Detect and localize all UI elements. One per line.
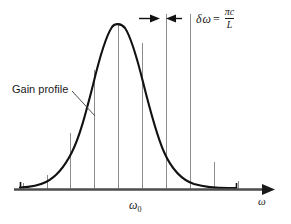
omega-axis-arrowhead [262, 184, 275, 195]
delta-symbol: δ [196, 12, 202, 27]
omega-symbol: ω [203, 12, 211, 27]
gain-profile-curve [20, 24, 236, 188]
spacing-arrowhead-right [166, 15, 176, 23]
figure-canvas [0, 0, 291, 224]
fraction-numerator: πc [223, 7, 236, 18]
mode-spacing-formula: δ ω = πc L [196, 8, 236, 31]
spacing-arrowhead-left [150, 15, 160, 23]
center-frequency-label: ω0 [129, 199, 141, 214]
gain-profile-figure: Gain profile ω0 ω δ ω = πc L [0, 0, 291, 224]
omega-subscript: 0 [137, 205, 141, 214]
formula-fraction: πc L [223, 7, 236, 30]
fraction-denominator: L [225, 18, 235, 30]
gain-profile-label: Gain profile [12, 84, 68, 95]
omega-axis-label: ω [258, 196, 266, 207]
mode-spacing-markers [139, 15, 182, 23]
equals-symbol: = [213, 12, 220, 27]
